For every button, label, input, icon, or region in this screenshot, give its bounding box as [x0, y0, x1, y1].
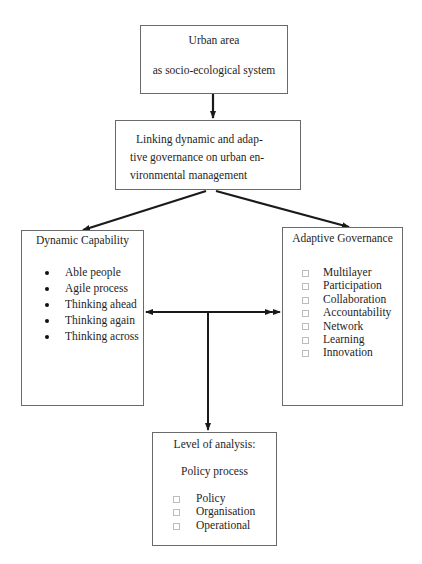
node-linking-governance-text: Linking dynamic and adap- tive governanc…	[130, 130, 292, 184]
level-of-analysis-list: Policy Organisation Operational	[169, 492, 255, 532]
list-item: Network	[298, 320, 391, 333]
bullet-square-icon	[302, 270, 309, 277]
list-item: Accountability	[298, 306, 391, 319]
adaptive-governance-list: Multilayer Participation Collaboration A…	[298, 266, 391, 360]
dynamic-capability-title: Dynamic Capability	[22, 234, 143, 246]
bullet-square-icon	[173, 523, 180, 530]
list-item: Thinking again	[40, 312, 139, 328]
bullet-square-icon	[302, 337, 309, 344]
arrow-middle-to-left	[83, 191, 206, 230]
bullet-dot-icon	[45, 303, 49, 307]
level-of-analysis-title: Level of analysis:	[153, 438, 276, 450]
list-item: Innovation	[298, 346, 391, 359]
bullet-square-icon	[173, 496, 180, 503]
bullet-square-icon	[173, 509, 180, 516]
bullet-dot-icon	[45, 287, 49, 291]
node-urban-area-title: Urban area	[141, 33, 287, 47]
list-item: Thinking ahead	[40, 296, 139, 312]
linking-line-3: vironmental management	[130, 166, 292, 184]
bullet-square-icon	[302, 283, 309, 290]
dynamic-capability-list: Able people Agile process Thinking ahead…	[40, 264, 139, 344]
node-level-of-analysis: Level of analysis: Policy process Policy…	[152, 432, 277, 546]
list-item: Organisation	[169, 505, 255, 518]
linking-line-2: tive governance on urban en-	[130, 148, 292, 166]
list-item: Policy	[169, 492, 255, 505]
policy-process-subtitle: Policy process	[153, 465, 276, 477]
list-item: Participation	[298, 279, 391, 292]
adaptive-governance-title: Adaptive Governance	[283, 232, 402, 244]
bullet-dot-icon	[45, 319, 49, 323]
bullet-square-icon	[302, 297, 309, 304]
list-item: Agile process	[40, 280, 139, 296]
node-dynamic-capability: Dynamic Capability Able people Agile pro…	[21, 230, 144, 406]
node-urban-area: Urban area as socio-ecological system	[140, 25, 288, 94]
list-item: Learning	[298, 333, 391, 346]
arrow-middle-to-right	[216, 191, 349, 227]
bullet-dot-icon	[45, 335, 49, 339]
node-linking-governance: Linking dynamic and adap- tive governanc…	[115, 120, 301, 190]
list-item: Able people	[40, 264, 139, 280]
node-urban-area-subtitle: as socio-ecological system	[141, 63, 287, 77]
list-item: Thinking across	[40, 328, 139, 344]
list-item: Multilayer	[298, 266, 391, 279]
bullet-square-icon	[302, 350, 309, 357]
linking-line-1: Linking dynamic and adap-	[130, 130, 292, 148]
node-adaptive-governance: Adaptive Governance Multilayer Participa…	[282, 227, 403, 406]
list-item: Collaboration	[298, 293, 391, 306]
bullet-dot-icon	[45, 271, 49, 275]
bullet-square-icon	[302, 323, 309, 330]
list-item: Operational	[169, 519, 255, 532]
bullet-square-icon	[302, 310, 309, 317]
